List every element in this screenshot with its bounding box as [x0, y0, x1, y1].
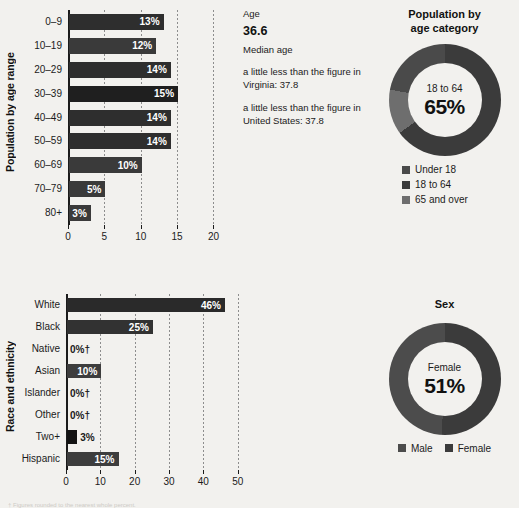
bar-row-label: White	[2, 299, 60, 310]
bar-row-label: 60–69	[4, 159, 62, 170]
bar-value-label: 0%†	[70, 386, 90, 400]
axis-tick	[141, 225, 142, 229]
sex-donut-title: Sex	[370, 298, 519, 312]
age-category-donut-title: Population by age category	[370, 8, 519, 35]
bar-row-label: Hispanic	[2, 453, 60, 464]
axis-tick	[68, 225, 69, 229]
legend-swatch-icon	[402, 196, 410, 204]
bar	[67, 430, 77, 444]
legend-label: Under 18	[415, 164, 456, 175]
age-category-donut-title-line2: age category	[370, 22, 519, 36]
axis-tick	[135, 470, 136, 474]
bar: 25%	[67, 320, 153, 334]
bar-value-label: 15%	[154, 88, 174, 99]
age-category-donut-center-label: 18 to 64	[426, 82, 462, 95]
age-stat-label: Age	[243, 8, 363, 19]
age-category-donut-legend: Under 1818 to 6465 and over	[402, 164, 519, 205]
bar-value-label: 10%	[77, 366, 97, 377]
axis-tick	[66, 470, 67, 474]
infographic-page: Population by age range 0–913%10–1912%20…	[0, 0, 519, 508]
bar-row-label: 70–79	[4, 183, 62, 194]
gridline	[238, 294, 239, 470]
age-stat-note-country: a little less than the figure in United …	[243, 102, 363, 127]
bar-row-label: 30–39	[4, 88, 62, 99]
axis-tick-label: 20	[193, 231, 233, 242]
gridline	[177, 10, 178, 225]
footnote: † Figures rounded to the nearest whole p…	[8, 502, 136, 508]
sex-donut-legend: MaleFemale	[370, 443, 519, 454]
bar-value-label: 5%	[87, 184, 101, 195]
bar-row-label: 80+	[4, 207, 62, 218]
bar-value-label: 0%†	[70, 408, 90, 422]
legend-swatch-icon	[398, 444, 406, 452]
bar-value-label: 14%	[147, 64, 167, 75]
gridline	[213, 10, 214, 225]
sex-donut-center: Female 51%	[408, 342, 482, 416]
axis-tick-label: 5	[84, 231, 124, 242]
legend-swatch-icon	[445, 444, 453, 452]
axis-tick	[104, 225, 105, 229]
bar: 10%	[67, 364, 101, 378]
axis-tick	[213, 225, 214, 229]
age-category-donut-center: 18 to 64 65%	[408, 63, 482, 137]
legend-swatch-icon	[402, 166, 410, 174]
bar-row-label: 50–59	[4, 135, 62, 146]
legend-swatch-icon	[402, 181, 410, 189]
legend-label: 65 and over	[415, 194, 468, 205]
bar-row-label: 10–19	[4, 40, 62, 51]
bar-row-label: Black	[2, 321, 60, 332]
axis-tick-label: 50	[218, 476, 258, 487]
bar-value-label: 0%†	[70, 342, 90, 356]
bar-row-label: Native	[2, 343, 60, 354]
bar: 14%	[69, 62, 171, 78]
bar: 15%	[69, 86, 178, 102]
legend-label: Female	[458, 443, 491, 454]
bar-row-label: Asian	[2, 365, 60, 376]
bar-value-label: 12%	[132, 40, 152, 51]
sex-donut-center-label: Female	[428, 361, 461, 374]
legend-label: 18 to 64	[415, 179, 451, 190]
bar: 3%	[69, 205, 91, 221]
age-stat-value: 36.6	[243, 24, 363, 38]
bar: 14%	[69, 133, 171, 149]
bar-row-label: 20–29	[4, 64, 62, 75]
bar-row-label: 40–49	[4, 112, 62, 123]
axis-tick	[177, 225, 178, 229]
axis-tick	[238, 470, 239, 474]
age-chart-plot: 0–913%10–1912%20–2914%30–3915%40–4914%50…	[68, 10, 228, 225]
bar-value-label: 14%	[147, 136, 167, 147]
bar-value-label: 46%	[201, 300, 221, 311]
race-chart-plot: White46%Black25%Native0%†Asian10%Islande…	[66, 294, 248, 470]
bar: 10%	[69, 157, 142, 173]
sex-donut-center-value: 51%	[424, 374, 465, 397]
axis-tick	[100, 470, 101, 474]
bar-value-label: 3%	[72, 208, 86, 219]
gridline	[169, 294, 170, 470]
race-bar-chart: Race and ethnicity White46%Black25%Nativ…	[0, 280, 260, 508]
bar-value-label: 3%	[80, 430, 94, 444]
axis-tick	[169, 470, 170, 474]
age-stat-sublabel: Median age	[243, 44, 363, 55]
sex-donut-block: Sex Female 51% MaleFemale	[370, 298, 519, 454]
legend-item[interactable]: Under 18	[402, 164, 456, 175]
gridline	[203, 294, 204, 470]
bar-row-label: Other	[2, 409, 60, 420]
bar-value-label: 10%	[118, 160, 138, 171]
bar-value-label: 25%	[129, 322, 149, 333]
legend-item[interactable]: Female	[445, 443, 491, 454]
bar: 46%	[67, 298, 225, 312]
bar-row-label: Islander	[2, 387, 60, 398]
bar: 15%	[67, 452, 119, 466]
axis-tick-label: 10	[121, 231, 161, 242]
bar: 5%	[69, 181, 105, 197]
axis-tick-label: 15	[157, 231, 197, 242]
bar-row-label: 0–9	[4, 16, 62, 27]
legend-item[interactable]: 18 to 64	[402, 179, 451, 190]
legend-label: Male	[411, 443, 433, 454]
axis-tick-label: 0	[48, 231, 88, 242]
bar: 13%	[69, 14, 164, 30]
bar-row-label: Two+	[2, 431, 60, 442]
bar-value-label: 15%	[94, 454, 114, 465]
legend-item[interactable]: Male	[398, 443, 433, 454]
legend-item[interactable]: 65 and over	[402, 194, 468, 205]
